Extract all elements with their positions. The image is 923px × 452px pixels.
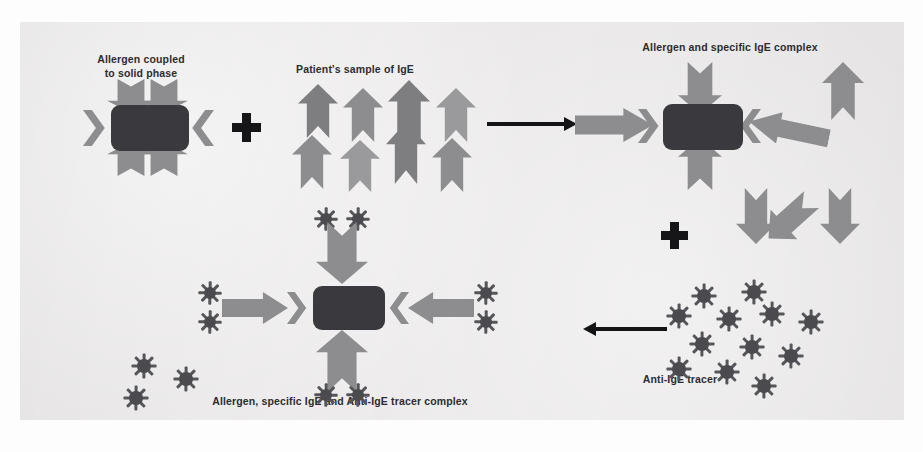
tracer-marker: [130, 352, 158, 380]
process-arrow-bottom: [595, 327, 667, 331]
tracer-marker: [738, 333, 766, 361]
tracer-marker-on-arrow: [313, 206, 339, 232]
tracer-marker: [665, 355, 693, 383]
caption-patient-sample: Patient's sample of IgE: [245, 62, 465, 76]
tracer-ige-arrow-left: [222, 292, 288, 324]
arrow-shaft: [408, 292, 474, 324]
tracer-ige-arrow-right: [408, 292, 474, 324]
tracer-marker: [688, 330, 716, 358]
tracer-marker-on-arrow: [473, 280, 499, 306]
tracer-marker: [665, 302, 693, 330]
figure-canvas: Allergen coupled to solid phase Patient'…: [0, 0, 923, 452]
tracer-marker: [715, 305, 743, 333]
plus-symbol-middle: [661, 222, 688, 249]
tracer-marker-on-arrow: [473, 309, 499, 335]
caption-allergen-ige-complex: Allergen and specific IgE complex: [590, 40, 870, 54]
caption-final-complex: Allergen, specific IgE and Anti-IgE trac…: [160, 394, 520, 408]
caption-line-1: Allergen coupled: [46, 52, 236, 66]
allergen-solid-phase-block: [111, 105, 189, 151]
tracer-marker-on-arrow: [345, 382, 371, 408]
tracer-marker: [750, 372, 778, 400]
allergen-ige-complex-block: [663, 104, 743, 150]
tracer-marker-on-arrow: [197, 280, 223, 306]
tracer-marker: [122, 384, 150, 412]
arrow-shaft: [222, 292, 288, 324]
caption-allergen-solid-phase: Allergen coupled to solid phase: [46, 52, 236, 80]
tracer-marker: [758, 300, 786, 328]
tracer-marker-on-arrow: [345, 206, 371, 232]
tracer-marker-on-arrow: [197, 309, 223, 335]
tracer-marker: [797, 308, 825, 336]
tracer-marker: [172, 365, 200, 393]
caption-line-2: to solid phase: [46, 66, 236, 80]
tracer-marker: [713, 358, 741, 386]
tracer-marker: [777, 342, 805, 370]
tracer-marker: [690, 282, 718, 310]
process-arrow-top: [487, 122, 565, 126]
final-complex-allergen-block: [313, 286, 385, 330]
tracer-marker-on-arrow: [313, 382, 339, 408]
plus-symbol-top: [232, 113, 261, 142]
